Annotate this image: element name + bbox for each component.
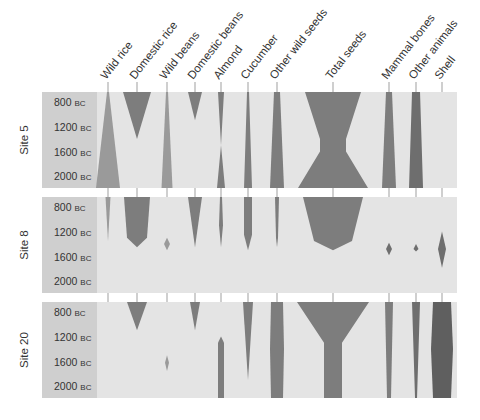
- panel-site-5: Site 5800BC1200BC1600BC2000BC: [18, 92, 457, 188]
- shape-almond: [218, 337, 224, 398]
- column-labels: Wild riceDomestic riceWild beansDomestic…: [98, 6, 460, 92]
- battleship-chart: Wild riceDomestic riceWild beansDomestic…: [0, 0, 480, 420]
- site-label: Site 20: [18, 332, 30, 368]
- panel-site-20: Site 20800BC1200BC1600BC2000BC: [18, 293, 457, 398]
- site-label: Site 5: [18, 125, 30, 154]
- column-label-shell: Shell: [432, 54, 457, 82]
- column-label-total-seeds: Total seeds: [323, 28, 368, 81]
- shape-other-wild-seeds: [270, 302, 284, 398]
- site-panels: Site 5800BC1200BC1600BC2000BCSite 8800BC…: [18, 92, 457, 398]
- panel-site-8: Site 8800BC1200BC1600BC2000BC: [18, 188, 457, 293]
- site-label: Site 8: [18, 230, 30, 259]
- shape-shell: [431, 302, 453, 398]
